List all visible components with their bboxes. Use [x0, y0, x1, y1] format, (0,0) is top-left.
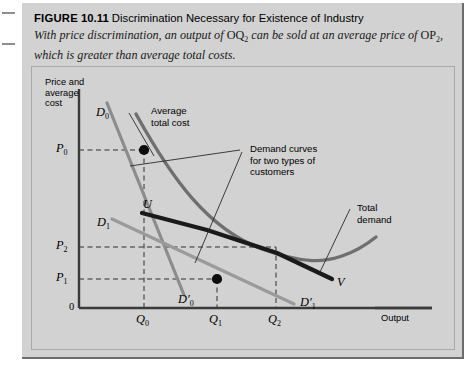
figure-title-text: Discrimination Necessary for Existence o… [112, 12, 364, 24]
caption-segment-2: can be sold at an average price of [248, 28, 420, 42]
curve-demand-D1 [112, 219, 294, 304]
curve-label-D0-end: D′0 [178, 292, 194, 308]
figure-title-line: FIGURE 10.11 Discrimination Necessary fo… [34, 11, 452, 26]
annotation-demand-line2: for two types of [250, 155, 317, 167]
curve-label-D1-start: D1 [97, 215, 110, 231]
curve-average-total-cost [136, 114, 376, 261]
point-P1-Q1 [212, 274, 222, 284]
y-tick-label-P1: P1 [56, 270, 68, 286]
annotation-demand-line3: customers [250, 166, 317, 178]
y-axis-title-line2: average [45, 88, 84, 99]
annotation-average-total-cost: Average total cost [151, 105, 189, 128]
annotation-total-demand: Total demand [357, 202, 392, 225]
y-axis-title-line1: Price and [45, 77, 84, 88]
annotation-demand-line1: Demand curves [250, 143, 317, 155]
leader-total-demand [320, 209, 350, 272]
figure-caption: FIGURE 10.11 Discrimination Necessary fo… [34, 11, 452, 62]
figure-number: 10.11 [81, 12, 109, 24]
curve-label-V: V [337, 275, 345, 290]
annotation-atc-line2: total cost [151, 117, 189, 129]
annotation-atc-line1: Average [151, 105, 189, 117]
point-P0-Q0 [139, 145, 149, 155]
x-tick-label-Q2: Q2 [268, 312, 281, 328]
y-tick-label-P0: P0 [56, 141, 68, 157]
curve-label-D1-end: D′1 [300, 295, 316, 311]
x-tick-label-Q1: Q1 [209, 312, 222, 328]
page-margin-dash-top [2, 12, 15, 14]
figure-label-word: FIGURE [34, 12, 78, 24]
x-axis-title: Output [381, 313, 409, 324]
x-tick-label-Q0: Q0 [136, 312, 149, 328]
y-axis-title: Price and average cost [45, 77, 84, 109]
annotation-demand-curves: Demand curves for two types of customers [250, 143, 317, 178]
curve-label-U: U [143, 197, 152, 212]
curve-label-D0-start: D0 [96, 105, 109, 121]
chart-plate: Price and average cost P0 P2 P1 0 Q0 Q1 … [31, 66, 455, 350]
caption-oq: OQ [227, 28, 245, 42]
origin-label: 0 [69, 301, 74, 312]
y-axis-title-line3: cost [45, 98, 84, 109]
y-tick-label-P2: P2 [56, 238, 68, 254]
page-margin-dash-bottom [2, 43, 15, 45]
annotation-total-demand-line2: demand [357, 214, 392, 226]
annotation-leaders [129, 113, 350, 272]
caption-segment-1: With price discrimination, an output of [34, 28, 227, 42]
figure-caption-text: With price discrimination, an output of … [34, 28, 450, 62]
figure-page: FIGURE 10.11 Discrimination Necessary fo… [0, 0, 472, 368]
caption-op: OP [421, 28, 437, 42]
annotation-total-demand-line1: Total [357, 202, 392, 214]
figure-block: FIGURE 10.11 Discrimination Necessary fo… [22, 3, 464, 359]
